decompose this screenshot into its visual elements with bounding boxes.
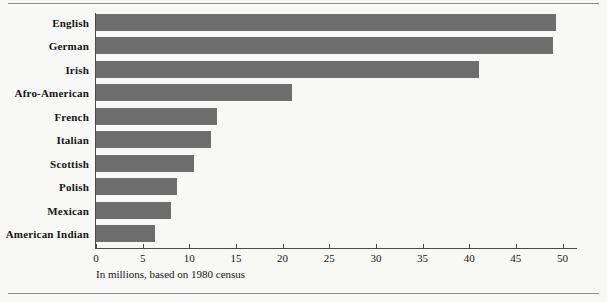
bar	[96, 131, 211, 148]
x-tick-mark	[376, 244, 377, 249]
bar-row	[96, 84, 292, 101]
x-tick-label: 15	[221, 252, 251, 264]
x-tick-label: 5	[128, 252, 158, 264]
category-label: Polish	[0, 181, 89, 193]
bar	[96, 84, 292, 101]
bar	[96, 108, 217, 125]
x-axis-line	[95, 248, 577, 249]
bar-series	[96, 14, 596, 248]
chart-figure: EnglishGermanIrishAfro-AmericanFrenchIta…	[0, 0, 607, 302]
x-tick-label: 30	[361, 252, 391, 264]
x-tick-mark	[563, 244, 564, 249]
bar-row	[96, 202, 171, 219]
bar	[96, 155, 194, 172]
bar	[96, 178, 177, 195]
bar-row	[96, 14, 556, 31]
bar	[96, 61, 479, 78]
category-label: Scottish	[0, 158, 89, 170]
bar-row	[96, 178, 177, 195]
category-label: Afro-American	[0, 87, 89, 99]
bar	[96, 14, 556, 31]
category-label: Irish	[0, 64, 89, 76]
x-tick-mark	[189, 244, 190, 249]
x-tick-label: 25	[314, 252, 344, 264]
x-tick-label: 35	[408, 252, 438, 264]
bar	[96, 225, 155, 242]
x-tick-label: 50	[548, 252, 578, 264]
category-label: American Indian	[0, 228, 89, 240]
category-label: German	[0, 40, 89, 52]
bar-row	[96, 61, 479, 78]
x-tick-label: 40	[454, 252, 484, 264]
x-tick-label: 10	[174, 252, 204, 264]
bar-row	[96, 225, 155, 242]
bar	[96, 202, 171, 219]
x-tick-mark	[516, 244, 517, 249]
category-label: Mexican	[0, 205, 89, 217]
bar-row	[96, 108, 217, 125]
category-label: Italian	[0, 134, 89, 146]
bar-row	[96, 131, 211, 148]
x-tick-mark	[96, 244, 97, 249]
x-tick-label: 20	[268, 252, 298, 264]
x-tick-mark	[423, 244, 424, 249]
x-tick-mark	[283, 244, 284, 249]
x-tick-label: 45	[501, 252, 531, 264]
x-tick-label: 0	[81, 252, 111, 264]
x-tick-mark	[329, 244, 330, 249]
category-label: French	[0, 111, 89, 123]
bar-row	[96, 155, 194, 172]
x-tick-mark	[143, 244, 144, 249]
bar	[96, 37, 553, 54]
bar-chart-plot: EnglishGermanIrishAfro-AmericanFrenchIta…	[0, 0, 607, 302]
chart-caption: In millions, based on 1980 census	[96, 268, 245, 280]
category-label: English	[0, 17, 89, 29]
bar-row	[96, 37, 553, 54]
x-tick-mark	[236, 244, 237, 249]
x-tick-mark	[469, 244, 470, 249]
